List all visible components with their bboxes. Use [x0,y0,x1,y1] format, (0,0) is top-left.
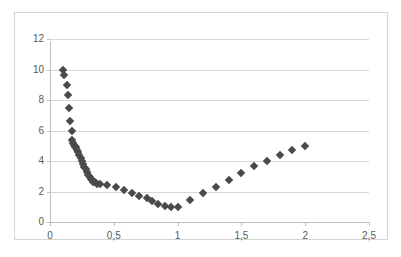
x-axis-label-1: 1 [163,231,193,241]
x-axis-label-1,5: 1,5 [226,231,256,241]
chart-frame: 024681012 00,511,522,5 [14,12,388,240]
x-axis-label-0,5: 0,5 [99,231,129,241]
x-axis-label-2,5: 2,5 [354,231,384,241]
x-axis-label-0: 0 [35,231,65,241]
x-axis-label-2: 2 [290,231,320,241]
x-axis-tick-labels: 00,511,522,5 [15,13,389,241]
plot-wrapper: 024681012 00,511,522,5 [15,13,389,241]
